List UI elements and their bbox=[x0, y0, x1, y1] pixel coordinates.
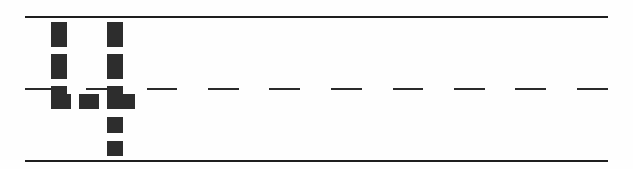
glyph-pixel bbox=[51, 94, 71, 109]
midline-dash bbox=[515, 88, 546, 90]
midline-dash bbox=[331, 88, 362, 90]
glyph-pixel bbox=[107, 117, 123, 133]
midline-dash bbox=[577, 88, 608, 90]
midline-dash bbox=[147, 88, 177, 90]
midline-dash bbox=[269, 88, 300, 90]
glyph-pixel bbox=[79, 94, 99, 109]
bottom-guide-line bbox=[25, 160, 608, 162]
midline-dash bbox=[454, 88, 485, 90]
midline-dash bbox=[393, 88, 423, 90]
glyph-pixel bbox=[107, 54, 123, 79]
glyph-pixel bbox=[51, 22, 67, 47]
handwriting-canvas: 4 bbox=[0, 0, 633, 169]
glyph-pixel bbox=[51, 54, 67, 79]
glyph-pixel bbox=[107, 141, 123, 156]
glyph-pixel bbox=[107, 94, 135, 109]
glyph-pixel bbox=[107, 22, 123, 47]
midline-dash bbox=[208, 88, 239, 90]
top-guide-line bbox=[25, 16, 608, 18]
